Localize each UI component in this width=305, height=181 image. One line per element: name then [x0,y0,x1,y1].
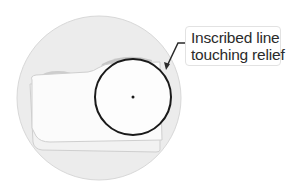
callout-line-1: Inscribed line [191,29,275,46]
center-point-icon [132,96,135,99]
callout-label: Inscribed line touching relief [185,26,281,66]
callout-line-2: touching relief [191,46,275,63]
